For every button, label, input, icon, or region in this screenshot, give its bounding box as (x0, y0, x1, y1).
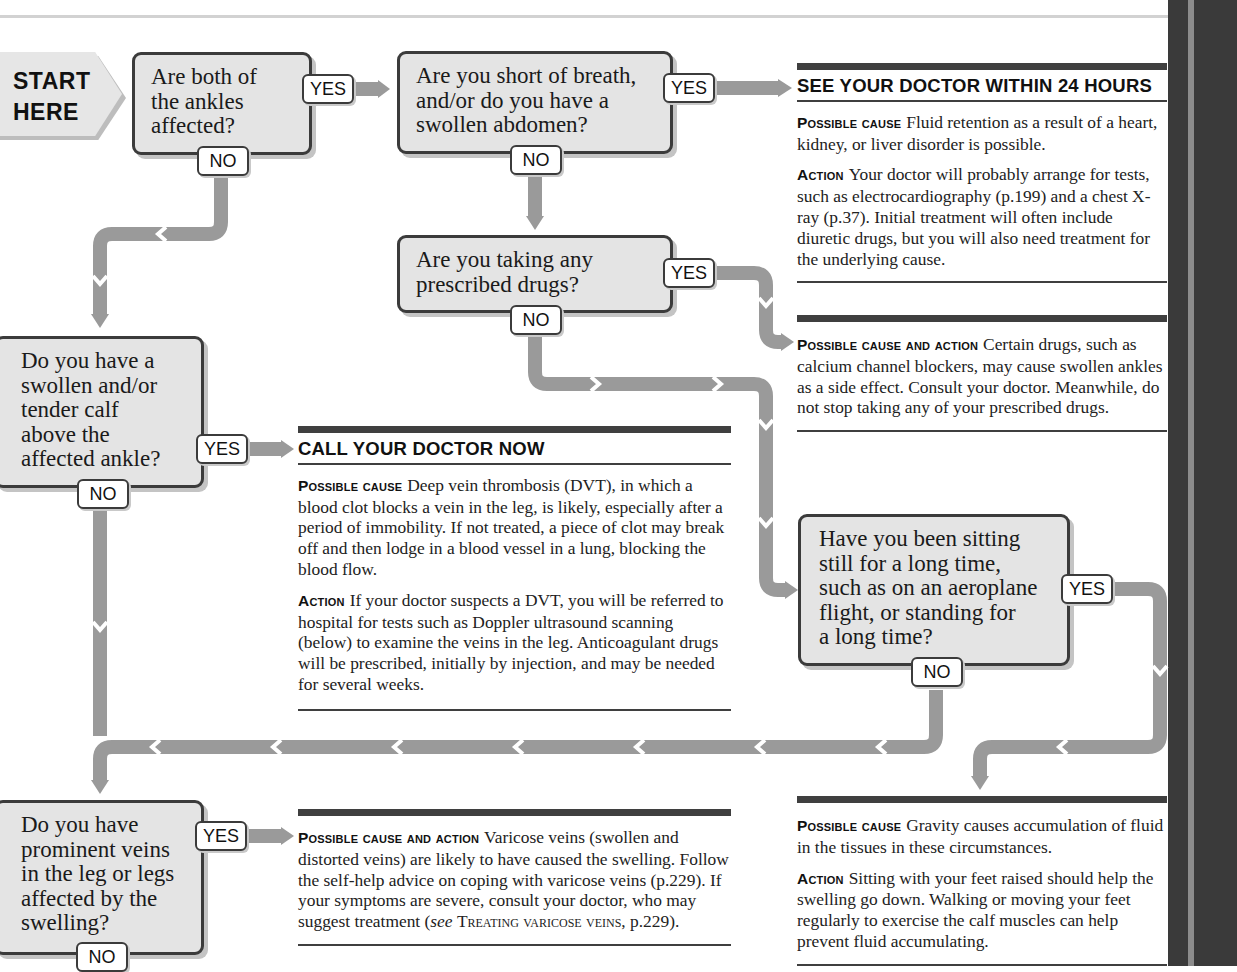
possible-cause-label: Possible cause (797, 817, 901, 834)
question-text: Do you have prominent veins in the leg o… (21, 813, 201, 936)
possible-cause-and-action-label: Possible cause and action (797, 336, 978, 353)
action: ActionIf your doctor suspects a DVT, you… (298, 590, 731, 695)
panel-bar (298, 809, 731, 816)
panel-heading: SEE YOUR DOCTOR WITHIN 24 HOURS (797, 70, 1167, 102)
possible-cause-label: Possible cause (298, 477, 402, 494)
action: ActionSitting with your feet raised shou… (797, 868, 1167, 952)
question-text: Have you been sitting still for a long t… (819, 527, 1049, 650)
outcome-see-doctor-24-hours: SEE YOUR DOCTOR WITHIN 24 HOURS Possible… (797, 63, 1167, 283)
possible-cause-label: Possible cause (797, 114, 901, 131)
action-text: Sitting with your feet raised should hel… (797, 868, 1153, 951)
cross-reference-tail: , p.229). (621, 911, 679, 931)
question-text: Do you have a swollen and/or tender calf… (21, 349, 201, 472)
q1-no-button[interactable]: NO (197, 146, 249, 176)
q6-no-button[interactable]: NO (76, 942, 128, 972)
see-reference: see (430, 911, 452, 931)
question-sitting-still: Have you been sitting still for a long t… (798, 514, 1070, 666)
question-text: Are you short of breath, and/or do you h… (416, 64, 654, 138)
panel-bar (797, 63, 1167, 70)
question-text: Are you taking any prescribed drugs? (416, 248, 654, 297)
question-short-of-breath: Are you short of breath, and/or do you h… (397, 51, 673, 154)
q5-no-button[interactable]: NO (911, 657, 963, 687)
action-text: Your doctor will probably arrange for te… (797, 164, 1150, 268)
possible-cause-and-action-label: Possible cause and action (298, 829, 479, 846)
action-label: Action (298, 592, 345, 609)
question-swollen-calf: Do you have a swollen and/or tender calf… (0, 336, 204, 488)
q1-yes-button[interactable]: YES (302, 74, 354, 104)
action-text: If your doctor suspects a DVT, you will … (298, 590, 724, 694)
possible-cause: Possible causeFluid retention as a resul… (797, 112, 1167, 155)
question-text: Are both of the ankles affected? (151, 65, 293, 139)
question-prescribed-drugs: Are you taking any prescribed drugs? (397, 235, 673, 313)
q3-yes-button[interactable]: YES (663, 258, 715, 288)
panel-end-rule (298, 709, 731, 711)
q5-yes-button[interactable]: YES (1061, 574, 1113, 604)
possible-cause-and-action: Possible cause and actionCertain drugs, … (797, 334, 1167, 418)
panel-end-rule (298, 944, 731, 946)
possible-cause: Possible causeGravity causes accumulatio… (797, 815, 1167, 858)
action: ActionYour doctor will probably arrange … (797, 164, 1167, 269)
outcome-call-doctor-now: CALL YOUR DOCTOR NOW Possible causeDeep … (298, 426, 731, 711)
outcome-varicose-veins: Possible cause and actionVaricose veins … (298, 809, 731, 946)
panel-bar (797, 796, 1167, 803)
panel-end-rule (797, 281, 1167, 283)
possible-cause-and-action: Possible cause and actionVaricose veins … (298, 827, 731, 932)
q2-yes-button[interactable]: YES (663, 73, 715, 103)
panel-heading: CALL YOUR DOCTOR NOW (298, 433, 731, 465)
q6-yes-button[interactable]: YES (195, 821, 247, 851)
q3-no-button[interactable]: NO (510, 305, 562, 335)
question-prominent-veins: Do you have prominent veins in the leg o… (0, 800, 204, 955)
action-label: Action (797, 166, 844, 183)
outcome-gravity: Possible causeGravity causes accumulatio… (797, 796, 1167, 966)
outcome-prescribed-drugs: Possible cause and actionCertain drugs, … (797, 315, 1167, 432)
q4-yes-button[interactable]: YES (196, 434, 248, 464)
q2-no-button[interactable]: NO (510, 145, 562, 175)
panel-bar (797, 315, 1167, 322)
q4-no-button[interactable]: NO (77, 479, 129, 509)
cross-reference-link[interactable]: Treating varicose veins (457, 911, 621, 931)
panel-bar (298, 426, 731, 433)
panel-end-rule (797, 964, 1167, 966)
start-line1: START (13, 66, 122, 97)
possible-cause: Possible causeDeep vein thrombosis (DVT)… (298, 475, 731, 580)
question-ankles-affected: Are both of the ankles affected? (132, 52, 312, 155)
action-label: Action (797, 870, 844, 887)
panel-end-rule (797, 430, 1167, 432)
